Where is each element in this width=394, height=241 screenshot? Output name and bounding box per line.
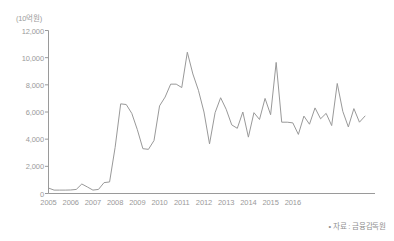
y-axis-ticks — [45, 31, 49, 194]
plot-area — [0, 0, 394, 241]
line-chart: (10억원) 02,0004,0006,0008,00010,00012,000… — [0, 0, 394, 241]
source-note: • 자료 : 금융감독원 — [328, 220, 386, 231]
axis-lines — [49, 31, 376, 194]
data-series-line — [49, 52, 366, 190]
